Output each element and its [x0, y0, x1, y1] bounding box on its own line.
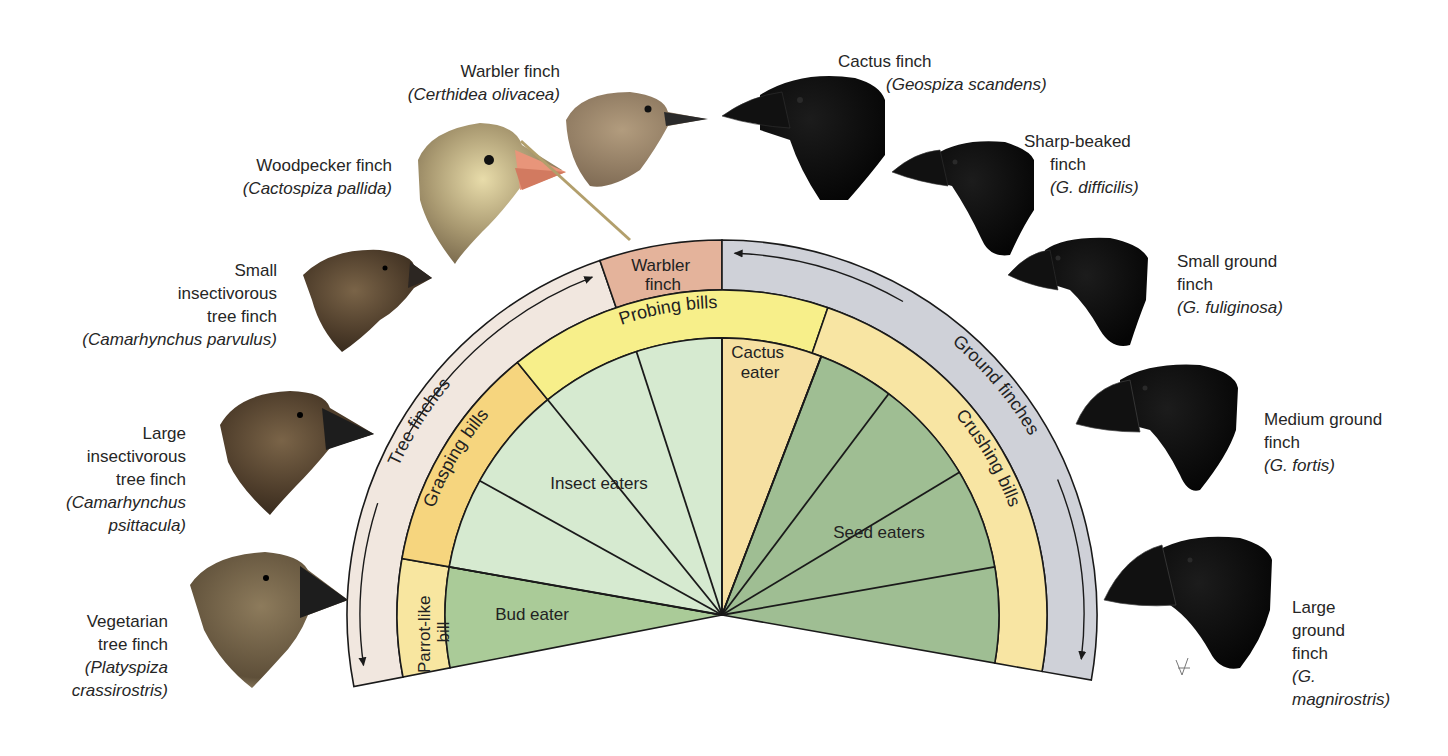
warbler-finch-head — [566, 92, 708, 187]
artist-signature-icon — [1176, 658, 1190, 675]
small-insectivorous-tree-finch-head — [303, 250, 432, 352]
sharp-beaked-finch-head — [892, 141, 1034, 255]
adaptive-radiation-diagram: Tree finches Ground finches Probing bill… — [0, 0, 1448, 756]
insect-eaters-label: Insect eaters — [550, 474, 647, 493]
large-ground-finch-head — [1104, 537, 1272, 669]
small-ground-finch-head — [1008, 238, 1148, 346]
medium-ground-finch-head — [1076, 365, 1238, 491]
vegetarian-tree-finch-head — [190, 552, 348, 688]
bud-eater-label: Bud eater — [495, 605, 569, 624]
cactus-finch-head — [722, 76, 885, 200]
large-insectivorous-tree-finch-head — [220, 391, 374, 515]
seed-eaters-label: Seed eaters — [833, 523, 925, 542]
